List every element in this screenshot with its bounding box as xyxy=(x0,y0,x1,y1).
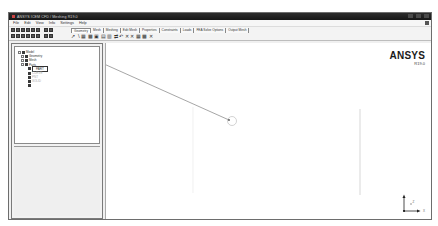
measure-icon[interactable] xyxy=(21,34,25,38)
view-options-icon[interactable] xyxy=(44,34,48,38)
checkbox-icon[interactable] xyxy=(28,80,31,83)
menu-settings[interactable]: Settings xyxy=(60,21,74,25)
window-controls xyxy=(408,14,429,18)
expand-icon[interactable] xyxy=(21,55,24,58)
save-geometry-icon[interactable] xyxy=(26,28,30,32)
selected-point-marker xyxy=(228,117,237,126)
transform-icon[interactable]: ⇄ xyxy=(114,34,118,39)
leader-endpoint xyxy=(228,119,230,121)
viewport-graphics xyxy=(106,43,432,219)
window-title: ANSYS ICEM CFD / Meshing R19.0 xyxy=(17,15,78,19)
svg-text:X: X xyxy=(423,209,425,213)
open-blocking-icon[interactable] xyxy=(31,28,35,32)
menu-edit[interactable]: Edit xyxy=(24,21,31,25)
expand-icon[interactable] xyxy=(18,51,21,54)
checkbox-icon[interactable] xyxy=(25,59,28,62)
repair-geometry-icon[interactable]: ▣ xyxy=(94,34,99,39)
app-icon xyxy=(12,15,15,18)
tree-item-part[interactable] xyxy=(18,84,48,88)
checkbox-icon[interactable] xyxy=(28,72,31,75)
properties-panel xyxy=(14,146,100,216)
menu-info[interactable]: Info xyxy=(49,21,55,25)
tab-constraints[interactable]: Constraints xyxy=(160,28,181,33)
undo-icon[interactable] xyxy=(44,28,48,32)
menu-file[interactable]: File xyxy=(13,21,19,25)
create-body-icon[interactable]: ▩ xyxy=(88,34,93,39)
selection-leader-line xyxy=(106,43,229,120)
delete-body-icon[interactable]: ▩ xyxy=(142,34,147,39)
title-bar: ANSYS ICEM CFD / Meshing R19.0 xyxy=(9,13,431,20)
refresh-icon[interactable] xyxy=(49,34,53,38)
tree: Model Geometry Mesh Parts xyxy=(18,50,48,88)
close-button[interactable] xyxy=(424,14,429,18)
redo-icon[interactable] xyxy=(49,28,53,32)
help-corner-icon[interactable] xyxy=(425,21,429,25)
open-project-icon[interactable] xyxy=(11,28,15,32)
origin-icon xyxy=(403,210,405,212)
delete-any-icon[interactable]: ✕ xyxy=(149,34,153,39)
menu-help[interactable]: Help xyxy=(79,21,87,25)
fit-window-icon[interactable] xyxy=(11,34,15,38)
left-panel: Model Geometry Mesh Parts xyxy=(11,43,103,219)
model-tree: Model Geometry Mesh Parts xyxy=(14,46,100,144)
geometry-tool-icon[interactable]: ▤ xyxy=(101,34,106,39)
main-toolbar-row-2 xyxy=(11,34,53,38)
checkbox-icon[interactable] xyxy=(25,63,28,66)
application-window: ANSYS ICEM CFD / Meshing R19.0 File Edit… xyxy=(8,12,432,220)
expand-icon[interactable] xyxy=(21,63,24,66)
expand-icon[interactable] xyxy=(21,59,24,62)
tab-output-mesh[interactable]: Output Mesh xyxy=(226,28,249,33)
delete-point-icon[interactable]: ✕ xyxy=(125,34,129,39)
shaded-icon[interactable] xyxy=(36,34,40,38)
save-blocking-icon[interactable] xyxy=(36,28,40,32)
tab-fea-solve-options[interactable]: FEA Solve Options xyxy=(194,28,226,33)
axis-triad: X Z xyxy=(396,193,426,215)
svg-text:Z: Z xyxy=(413,200,415,204)
create-point-icon[interactable]: ↗ xyxy=(71,34,75,39)
zoom-box-icon[interactable] xyxy=(16,34,20,38)
wireframe-icon[interactable] xyxy=(31,34,35,38)
toolbar: Geometry Mesh Meshing Edit Mesh Properti… xyxy=(9,27,431,41)
tab-loads[interactable]: Loads xyxy=(181,28,195,33)
checkbox-icon[interactable] xyxy=(25,55,28,58)
faceting-icon[interactable]: ▥ xyxy=(107,34,112,39)
minimize-button[interactable] xyxy=(408,14,413,18)
open-geometry-icon[interactable] xyxy=(21,28,25,32)
select-icon[interactable] xyxy=(26,34,30,38)
save-project-icon[interactable] xyxy=(16,28,20,32)
create-curve-icon[interactable]: ∖ xyxy=(77,34,80,39)
checkbox-icon[interactable] xyxy=(28,84,31,87)
delete-curve-icon[interactable]: ✕ xyxy=(130,34,134,39)
checkbox-icon[interactable] xyxy=(28,67,31,70)
checkbox-icon[interactable] xyxy=(28,76,31,79)
menu-bar: File Edit View Info Settings Help xyxy=(9,20,431,27)
model-icon xyxy=(22,51,25,54)
maximize-button[interactable] xyxy=(416,14,421,18)
delete-surface-icon[interactable]: ▦ xyxy=(136,34,141,39)
restore-icon[interactable]: ↶ xyxy=(119,34,123,39)
main-toolbar-row-1 xyxy=(11,28,53,32)
geometry-toolbar: ↗ ∖ ▦ ▩ ▣ ▤ ▥ ⇄ ↶ ✕ ✕ ▦ ▩ ✕ xyxy=(71,34,153,39)
create-surface-icon[interactable]: ▦ xyxy=(81,34,86,39)
menu-view[interactable]: View xyxy=(36,21,44,25)
graphics-viewport[interactable]: ANSYS R19.0 X Z xyxy=(105,43,431,219)
